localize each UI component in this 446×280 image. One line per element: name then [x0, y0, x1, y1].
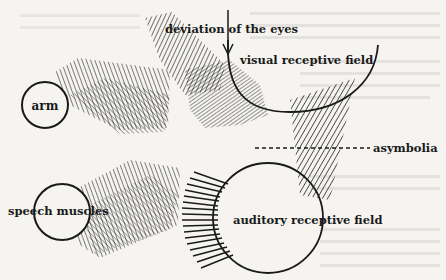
arm-label: arm: [32, 99, 59, 113]
arm-fiber-bundle: [55, 58, 170, 134]
speech-muscles-label: speech muscles: [8, 204, 109, 218]
auditory-receptive-field-label: auditory receptive field: [233, 213, 382, 227]
deviation-of-eyes-label: deviation of the eyes: [165, 22, 298, 36]
asymbolia-fiber-bundle: [290, 78, 355, 200]
neurological-association-diagram: arm deviation of the eyes visual recepti…: [0, 0, 446, 280]
visual-field-fibers: [185, 60, 268, 128]
diagram-canvas: arm deviation of the eyes visual recepti…: [0, 0, 446, 280]
visual-receptive-field-label: visual receptive field: [239, 53, 373, 67]
asymbolia-label: asymbolia: [373, 141, 438, 155]
